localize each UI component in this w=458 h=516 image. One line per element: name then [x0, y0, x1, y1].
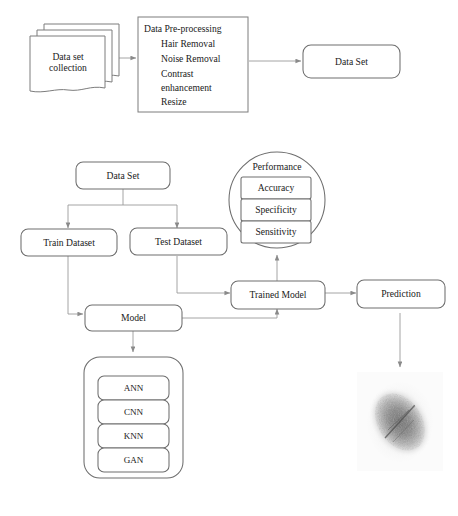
train-dataset-box — [21, 229, 117, 256]
lesion-image-graphic — [357, 372, 443, 471]
test-dataset-box — [130, 228, 227, 255]
flowchart-diagram: Data set collection Data Pre-processing … — [0, 0, 458, 516]
trained-model-box — [231, 281, 325, 309]
algorithm-box-cnn — [98, 400, 169, 424]
preprocessing-box — [138, 17, 248, 112]
algorithm-box-ann — [98, 376, 169, 400]
algorithm-box-knn — [98, 424, 169, 448]
prediction-box — [357, 280, 445, 308]
metric-box-specificity — [241, 199, 311, 221]
metric-box-sensitivity — [241, 221, 311, 243]
document-sheet-front — [30, 36, 105, 92]
metric-box-accuracy — [241, 177, 311, 199]
model-box — [85, 305, 182, 331]
algorithm-box-gan — [98, 448, 169, 472]
dataset-box — [76, 162, 170, 189]
output-lesion-image — [357, 372, 443, 471]
dataset-output-box — [303, 45, 400, 78]
